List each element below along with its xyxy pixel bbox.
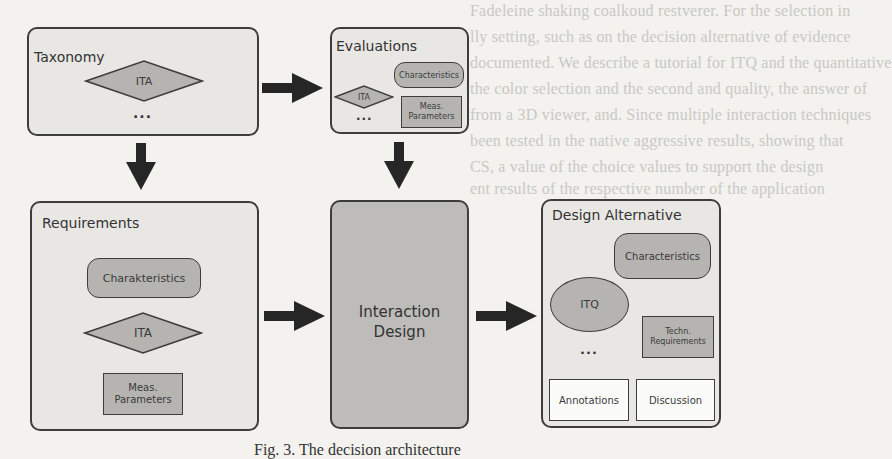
ghost-line: been tested in the native aggressive res… xyxy=(470,132,844,150)
interaction-design-label: Interaction Design xyxy=(332,302,467,343)
requirements-box: Requirements Charakteristics ITA Meas. P… xyxy=(30,201,259,431)
arrow-right-icon xyxy=(262,72,324,104)
itq-ellipse: ITQ xyxy=(550,277,629,332)
design-alternative-title: Design Alternative xyxy=(552,207,682,223)
ghost-line: Fadeleine shaking coalkoud restverer. Fo… xyxy=(470,2,850,20)
arrow-right-icon xyxy=(264,300,326,332)
annotations-label: Annotations xyxy=(559,395,619,406)
ita-label: ITA xyxy=(134,326,152,340)
ghost-line: documented. We describe a tutorial for I… xyxy=(470,54,892,72)
ita-diamond: ITA xyxy=(334,85,394,109)
discussion-node: Discussion xyxy=(636,379,715,421)
ghost-line: the color selection and the second and q… xyxy=(470,80,867,98)
ellipsis-more: ... xyxy=(356,109,373,123)
interaction-design-box: Interaction Design xyxy=(330,200,469,429)
ghost-line: ent results of the respective number of … xyxy=(470,180,825,198)
requirements-title: Requirements xyxy=(42,215,139,231)
meas-parameters-node: Meas. Parameters xyxy=(401,96,462,128)
ghost-line: CS, a value of the choice values to supp… xyxy=(470,158,823,176)
ghost-line: lly setting, such as on the decision alt… xyxy=(470,28,851,46)
ita-label: ITA xyxy=(136,75,153,88)
techn-requirements-label: Techn. Requirements xyxy=(648,327,708,347)
meas-parameters-label: Meas. Parameters xyxy=(408,102,456,122)
design-alternative-box: Design Alternative Characteristics ITQ T… xyxy=(541,199,721,428)
meas-parameters-label: Meas. Parameters xyxy=(111,382,175,407)
charakteristics-node: Charakteristics xyxy=(87,258,201,298)
ita-diamond: ITA xyxy=(84,60,204,102)
ellipsis-more: ... xyxy=(580,342,598,357)
itq-label: ITQ xyxy=(580,298,599,311)
interaction-design-line2: Design xyxy=(332,322,467,342)
evaluations-title: Evaluations xyxy=(336,38,417,54)
discussion-label: Discussion xyxy=(649,395,702,406)
taxonomy-box: Taxonomy ITA ... xyxy=(27,27,259,136)
ita-label: ITA xyxy=(358,93,370,102)
characteristics-label: Characteristics xyxy=(625,251,700,262)
techn-requirements-node: Techn. Requirements xyxy=(642,316,714,358)
ghost-line: from a 3D viewer, and. Since multiple in… xyxy=(470,106,871,124)
arrow-down-icon xyxy=(126,143,156,191)
charakteristics-label: Charakteristics xyxy=(103,272,186,285)
characteristics-node: Characteristics xyxy=(394,62,464,88)
ellipsis-more: ... xyxy=(133,105,152,121)
interaction-design-line1: Interaction xyxy=(332,302,467,322)
characteristics-node: Characteristics xyxy=(614,233,711,279)
arrow-down-icon xyxy=(384,142,414,190)
annotations-node: Annotations xyxy=(549,379,629,421)
characteristics-label: Characteristics xyxy=(399,71,459,80)
ita-diamond: ITA xyxy=(83,312,203,354)
figure-caption: Fig. 3. The decision architecture xyxy=(254,441,461,459)
meas-parameters-node: Meas. Parameters xyxy=(103,373,183,415)
evaluations-box: Evaluations Characteristics ITA Meas. Pa… xyxy=(330,27,469,134)
arrow-right-icon xyxy=(476,300,538,332)
